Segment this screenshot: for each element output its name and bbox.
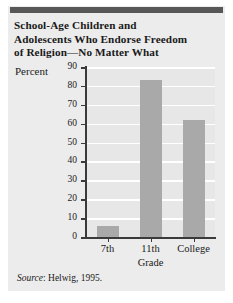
y-tick-label: 80	[68, 81, 78, 91]
x-tick-mark	[108, 238, 110, 242]
x-tick-mark	[151, 238, 153, 242]
source-label: Source	[17, 273, 43, 283]
y-tick-mark	[81, 143, 85, 145]
y-tick-mark	[81, 67, 85, 69]
y-tick-label: 20	[68, 194, 78, 204]
y-tick-mark	[81, 199, 85, 201]
source-note: Source: Helwig, 1995.	[17, 273, 102, 283]
source-citation: Helwig, 1995.	[48, 273, 102, 283]
y-tick-label: 90	[68, 62, 78, 72]
figure-container: School-Age Children and Adolescents Who …	[0, 0, 233, 303]
y-tick-label: 30	[68, 175, 78, 185]
y-tick-mark	[81, 86, 85, 88]
y-tick-label: 70	[68, 100, 78, 110]
y-tick-mark	[81, 124, 85, 126]
y-tick-label: 40	[68, 156, 78, 166]
y-tick-mark	[81, 218, 85, 220]
x-tick-label: College	[164, 243, 224, 254]
plot-area	[86, 67, 215, 237]
y-tick-mark	[81, 105, 85, 107]
bar	[183, 120, 205, 237]
y-tick-mark	[81, 161, 85, 163]
y-tick-label: 10	[68, 213, 78, 223]
y-axis-label: Percent	[15, 65, 48, 77]
gridline	[86, 67, 215, 69]
y-tick-mark	[81, 180, 85, 182]
y-tick-mark	[81, 237, 85, 239]
bar	[97, 226, 119, 237]
bar	[140, 80, 162, 237]
chart-plot-wrapper: Percent 9080706050403020100 7th11thColle…	[0, 0, 233, 303]
y-tick-label: 50	[68, 138, 78, 148]
x-tick-mark	[194, 238, 196, 242]
y-axis-line	[85, 66, 87, 238]
y-tick-label: 60	[68, 119, 78, 129]
x-axis-label: Grade	[86, 257, 215, 268]
y-tick-label: 0	[72, 232, 77, 242]
